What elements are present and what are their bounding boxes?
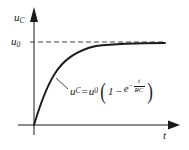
- y-axis-tick-label-u0: u0: [11, 36, 20, 48]
- formula-equals-sign: =: [82, 86, 88, 97]
- formula-exponent-denominator: RC: [134, 87, 145, 94]
- formula-minus-sign: −: [115, 86, 121, 97]
- formula-exponent-fraction: t RC: [134, 78, 145, 94]
- y-tick-label-subscript: 0: [17, 40, 21, 49]
- formula-exponent: − t RC: [129, 78, 144, 94]
- figure-canvas: [0, 0, 189, 150]
- formula-lhs-subscript: C: [76, 87, 81, 95]
- formula-lhs: uC: [70, 86, 81, 97]
- x-axis-arrowhead: [168, 121, 180, 130]
- formula-annotation: uC = u0 ( 1 − e − t RC ): [70, 82, 155, 100]
- formula-open-paren: (: [100, 82, 106, 100]
- formula-one: 1: [108, 86, 114, 97]
- formula-exponent-numerator: t: [137, 78, 141, 85]
- formula-exponent-minus: −: [129, 83, 133, 90]
- formula-amplitude-subscript: 0: [94, 87, 98, 95]
- y-axis-label: uC: [14, 12, 25, 24]
- y-axis-arrowhead: [30, 7, 38, 22]
- x-axis-label: t: [163, 130, 166, 141]
- formula-amplitude: u0: [89, 86, 98, 97]
- formula-close-paren: ): [147, 82, 153, 100]
- formula-leader-line: [56, 78, 68, 89]
- y-axis-label-subscript: C: [20, 16, 25, 25]
- formula-exponential-term: e − t RC: [124, 83, 145, 99]
- formula-e-base: e: [124, 83, 129, 94]
- capacitor-charging-figure: uC u0 t uC = u0 ( 1 − e − t RC ): [0, 0, 189, 150]
